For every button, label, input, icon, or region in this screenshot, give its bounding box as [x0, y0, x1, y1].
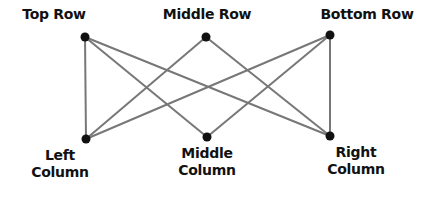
label-line-2: Column: [327, 161, 384, 178]
node-top_row: [81, 33, 90, 42]
node-middle_row: [202, 33, 211, 42]
label-right-column: Right Column: [327, 144, 384, 178]
label-line-1: Right: [327, 144, 384, 161]
node-left_column: [82, 135, 91, 144]
label-line-2: Column: [31, 164, 88, 181]
label-line-1: Middle: [178, 145, 235, 162]
label-middle-column: Middle Column: [178, 145, 235, 179]
label-bottom-row: Bottom Row: [320, 6, 413, 23]
label-text: Bottom Row: [320, 6, 413, 22]
label-line-1: Left: [31, 147, 88, 164]
label-left-column: Left Column: [31, 147, 88, 181]
label-text: Top Row: [22, 6, 85, 22]
label-middle-row: Middle Row: [163, 6, 251, 23]
node-middle_column: [203, 133, 212, 142]
label-line-2: Column: [178, 162, 235, 179]
node-right_column: [326, 132, 335, 141]
bipartite-diagram: Top Row Middle Row Bottom Row Left Colum…: [0, 0, 443, 197]
edge-bottom_row-left_column: [86, 35, 330, 139]
edge-top_row-left_column: [85, 37, 86, 139]
node-bottom_row: [326, 31, 335, 40]
label-text: Middle Row: [163, 6, 251, 22]
label-top-row: Top Row: [22, 6, 85, 23]
